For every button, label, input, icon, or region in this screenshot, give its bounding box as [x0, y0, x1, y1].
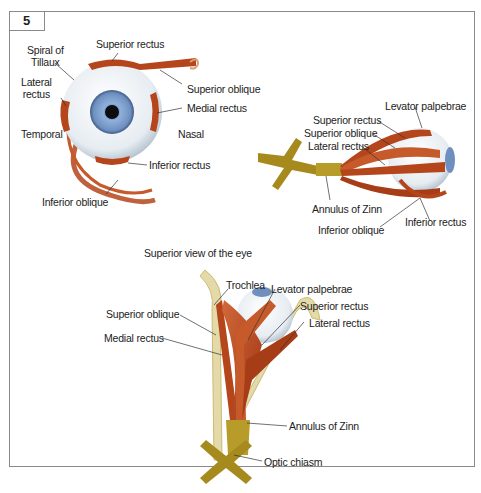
label-medial-rectus-superior: Medial rectus — [104, 332, 164, 344]
label-superior-oblique-superior: Superior oblique — [106, 308, 179, 320]
label-line: Tillaux — [31, 56, 60, 68]
superior-eye-diagram — [162, 270, 320, 484]
label-annulus-of-zinn-superior: Annulus of Zinn — [289, 420, 359, 432]
label-lateral-rectus-anterior: Lateralrectus — [21, 76, 52, 100]
label-medial-rectus-anterior: Medial rectus — [187, 102, 247, 114]
label-line: Lateral — [21, 76, 52, 88]
label-superior-oblique-anterior: Superior oblique — [187, 83, 260, 95]
label-inferior-oblique-anterior: Inferior oblique — [42, 196, 108, 208]
label-nasal: Nasal — [178, 128, 204, 140]
label-trochlea: Trochlea — [226, 279, 265, 291]
superior-view-title: Superior view of the eye — [144, 247, 252, 259]
label-inferior-oblique-lateral: Inferior oblique — [318, 224, 384, 236]
label-spiral-of-tillaux: Spiral ofTillaux — [27, 44, 64, 68]
label-inferior-rectus-anterior: Inferior rectus — [149, 159, 210, 171]
label-optic-chiasm: Optic chiasm — [264, 456, 322, 468]
label-levator-palpebrae-lateral: Levator palpebrae — [385, 100, 466, 112]
pupil — [105, 105, 119, 119]
label-superior-oblique-lateral: Superior oblique — [304, 127, 377, 139]
label-annulus-of-zinn-lateral: Annulus of Zinn — [312, 203, 382, 215]
anterior-eye-diagram — [55, 53, 198, 202]
label-line: rectus — [23, 88, 50, 100]
label-superior-rectus-superior: Superior rectus — [300, 300, 368, 312]
label-superior-rectus-anterior: Superior rectus — [96, 38, 164, 50]
label-superior-rectus-lateral: Superior rectus — [313, 114, 381, 126]
label-line: Spiral of — [27, 44, 64, 56]
label-lateral-rectus-superior: Lateral rectus — [309, 317, 370, 329]
label-temporal: Temporal — [21, 128, 63, 140]
label-levator-palpebrae-superior: Levator palpebrae — [271, 283, 352, 295]
label-inferior-rectus-lateral: Inferior rectus — [405, 216, 466, 228]
label-lateral-rectus-lateral: Lateral rectus — [308, 140, 369, 152]
